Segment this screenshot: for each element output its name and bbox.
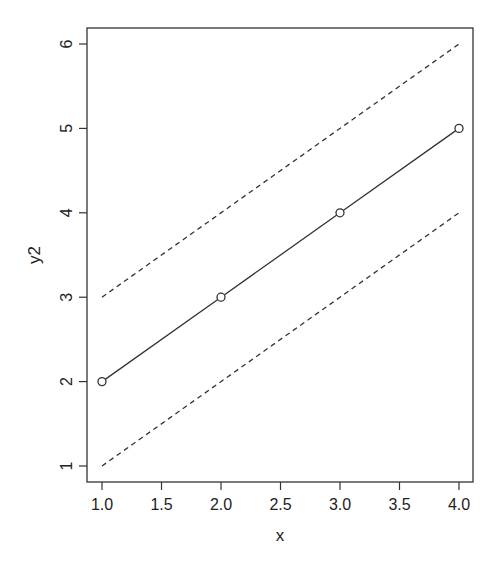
x-tick-label: 3.0 [329, 496, 351, 513]
data-point-marker [336, 209, 344, 217]
x-tick-label: 4.0 [448, 496, 470, 513]
x-tick-label: 3.5 [388, 496, 410, 513]
y-tick-label: 4 [58, 208, 75, 217]
x-axis: 1.01.52.02.53.03.54.0 [91, 482, 470, 513]
y-tick-label: 6 [58, 39, 75, 48]
y-axis: 123456 [58, 39, 87, 470]
y-tick-label: 1 [58, 461, 75, 470]
y-tick-label: 2 [58, 377, 75, 386]
data-point-marker [98, 378, 106, 386]
line-chart: 1.01.52.02.53.03.54.0 123456 x y2 [0, 0, 501, 566]
x-tick-label: 1.0 [91, 496, 113, 513]
x-axis-label: x [276, 526, 285, 545]
series-layer [98, 44, 463, 466]
y-tick-label: 3 [58, 293, 75, 302]
lower-dashed-line [102, 213, 459, 466]
y-axis-label: y2 [25, 246, 44, 264]
y2-line [102, 128, 459, 381]
x-tick-label: 2.5 [269, 496, 291, 513]
upper-dashed-line [102, 44, 459, 297]
data-point-marker [455, 124, 463, 132]
x-tick-label: 1.5 [150, 496, 172, 513]
y-tick-label: 5 [58, 124, 75, 133]
x-tick-label: 2.0 [210, 496, 232, 513]
data-point-marker [217, 293, 225, 301]
